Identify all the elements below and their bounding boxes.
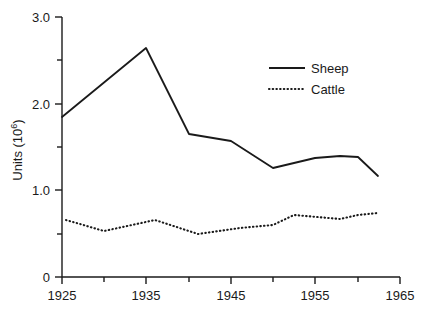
x-tick-label-1955: 1955 [301,288,330,303]
y-tick-label-2_0: 2.0 [32,97,50,112]
y-tick-labels: 3.0 2.0 1.0 0 [32,10,50,285]
y-tick-label-3_0: 3.0 [32,10,50,25]
legend-label-sheep: Sheep [311,61,349,76]
legend-label-cattle: Cattle [311,82,345,97]
line-chart: 3.0 2.0 1.0 0 1925 1935 1945 1955 1965 U… [0,0,424,316]
x-tick-label-1935: 1935 [132,288,161,303]
y-axis-title: Units (106) [9,119,25,180]
svg-text:Units (106): Units (106) [9,119,25,180]
y-tick-label-0: 0 [43,270,50,285]
y-tick-label-1_0: 1.0 [32,183,50,198]
series-cattle [66,213,378,234]
x-tick-label-1925: 1925 [48,288,77,303]
x-tick-label-1945: 1945 [217,288,246,303]
x-tick-label-1965: 1965 [386,288,415,303]
legend-item-sheep: Sheep [269,61,349,76]
x-tick-labels: 1925 1935 1945 1955 1965 [48,288,415,303]
y-axis-title-close: ) [10,119,25,123]
cattle-line [66,213,378,234]
x-axis [62,277,400,284]
legend-item-cattle: Cattle [269,82,345,97]
y-axis-title-base: Units (10 [10,129,25,181]
legend: Sheep Cattle [269,61,349,97]
chart-container: 3.0 2.0 1.0 0 1925 1935 1945 1955 1965 U… [0,0,424,316]
y-axis [55,17,62,277]
